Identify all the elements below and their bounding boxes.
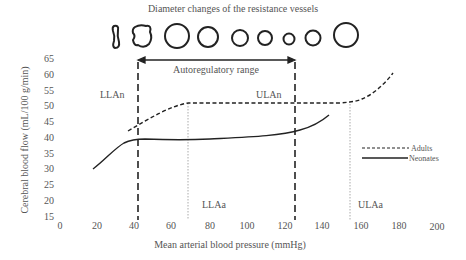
svg-text:30: 30: [44, 163, 54, 174]
y-axis-label: Cerebral blood flow (mL/100 g/min): [19, 66, 31, 213]
legend: Adults Neonates: [362, 144, 439, 163]
svg-text:20: 20: [92, 220, 102, 231]
svg-text:40: 40: [44, 132, 54, 143]
svg-text:55: 55: [44, 85, 54, 96]
svg-text:60: 60: [44, 69, 54, 80]
vessel-collapsed-icon: [113, 26, 120, 48]
vessel-circle-icon: [165, 24, 189, 48]
svg-text:65: 65: [44, 53, 54, 64]
svg-text:200: 200: [430, 221, 445, 232]
neonates-curve: [93, 115, 329, 169]
legend-neonates: Neonates: [409, 154, 439, 163]
ulan-label: ULAn: [256, 89, 282, 100]
x-axis-label: Mean arterial blood pressure (mmHg): [154, 239, 306, 251]
svg-text:0: 0: [58, 220, 63, 231]
llan-label: LLAn: [100, 89, 124, 100]
svg-text:180: 180: [392, 220, 407, 231]
vessel-circle-icon: [258, 31, 272, 45]
svg-text:45: 45: [44, 116, 54, 127]
svg-text:100: 100: [240, 220, 255, 231]
svg-text:15: 15: [44, 211, 54, 222]
svg-text:25: 25: [44, 179, 54, 190]
svg-text:120: 120: [278, 220, 293, 231]
ulaa-label: ULAa: [358, 199, 384, 210]
autoregulatory-range-arrow: [138, 57, 295, 63]
chart: Diameter changes of the resistance vesse…: [0, 0, 466, 260]
adults-curve: [128, 73, 393, 131]
svg-text:40: 40: [129, 220, 139, 231]
vessel-diagram: [113, 23, 358, 48]
vessel-diagram-title: Diameter changes of the resistance vesse…: [148, 3, 318, 14]
svg-text:35: 35: [44, 148, 54, 159]
svg-text:20: 20: [44, 195, 54, 206]
y-axis-ticks: 65 60 55 50 45 40 35 30 25 20 15: [44, 53, 54, 222]
svg-text:140: 140: [315, 220, 330, 231]
vessel-irregular-icon: [133, 25, 152, 47]
vessel-circle-icon: [198, 27, 218, 47]
svg-text:60: 60: [166, 220, 176, 231]
svg-text:160: 160: [354, 220, 369, 231]
vessel-circle-icon: [306, 31, 321, 46]
autoregulatory-range-label: Autoregulatory range: [173, 64, 259, 75]
legend-adults: Adults: [411, 144, 432, 153]
svg-text:80: 80: [205, 220, 215, 231]
vessel-circle-icon: [334, 23, 358, 47]
llaa-label: LLAa: [202, 199, 226, 210]
x-axis-ticks: 0 20 40 60 80 100 120 140 160 180 200: [58, 220, 445, 232]
vessel-circle-icon: [284, 34, 295, 45]
svg-text:50: 50: [44, 100, 54, 111]
vessel-circle-icon: [232, 30, 248, 46]
